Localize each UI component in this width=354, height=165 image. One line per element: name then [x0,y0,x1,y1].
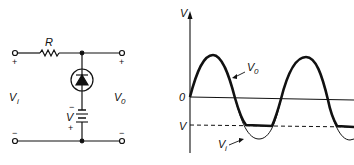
zero-label: 0 [179,91,186,103]
vi-curve-label: V i [218,138,227,153]
svg-text:0: 0 [254,67,259,76]
waveform-graph [188,11,354,153]
input-terminal-top [13,51,18,56]
zero-axis [190,97,354,100]
battery-icon [76,110,88,122]
output-minus-sign: − [119,128,124,138]
v0-curve-label: V 0 [247,61,259,76]
input-terminal-bottom [13,139,18,144]
y-axis-label: V [180,7,189,19]
svg-text:i: i [225,144,227,153]
input-voltage-label: V i [9,91,19,106]
v0-leader-arrow-icon [232,74,237,79]
battery-plus-sign: + [68,123,73,133]
bias-level-label: V [179,120,188,132]
output-voltage-label: V 0 [114,91,126,106]
svg-text:0: 0 [121,97,126,106]
input-plus-sign: + [12,57,17,67]
y-axis-arrow-icon [188,11,193,19]
vi-leader-arrow-icon [239,138,244,143]
diode-icon [76,75,88,85]
svg-text:i: i [17,97,19,106]
output-terminal-top [120,51,125,56]
resistor-label: R [45,36,53,48]
output-plus-sign: + [119,57,124,67]
battery-voltage-label: V [66,111,75,123]
clipper-circuit-figure: R + − + − V i V 0 − V + V 0 V V 0 V [0,0,354,165]
input-minus-sign: − [12,128,17,138]
output-terminal-bottom [120,139,125,144]
resistor [40,50,59,56]
output-waveform-v0 [190,55,354,127]
